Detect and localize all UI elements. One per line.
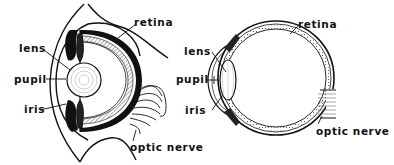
left-label-lens: lens — [19, 43, 46, 54]
right-label-iris: iris — [185, 105, 206, 116]
left-eye-lens — [67, 63, 101, 97]
left-label-pupil: pupil — [14, 74, 47, 85]
left-label-retina: retina — [134, 17, 173, 28]
right-label-retina: retina — [298, 19, 337, 30]
right-label-pupil: pupil — [176, 74, 209, 85]
left-label-optic-nerve: optic nerve — [130, 142, 204, 153]
eye-anatomy-figure: lens pupil iris retina optic nerve lens … — [0, 0, 394, 165]
left-label-iris: iris — [24, 104, 45, 115]
right-label-lens: lens — [184, 46, 211, 57]
right-eye-diagram — [206, 21, 336, 135]
right-label-optic-nerve: optic nerve — [316, 126, 390, 137]
